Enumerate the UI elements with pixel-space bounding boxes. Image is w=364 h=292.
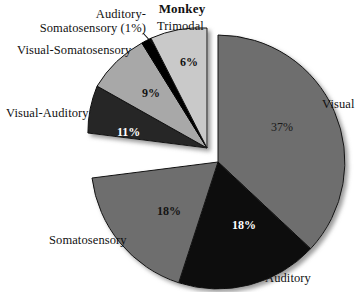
pie-chart: Monkey A: [0, 0, 364, 292]
slice-label-auditory-somatosensory-line1: Auditory-: [14, 8, 146, 22]
slice-label-visual-somatosensory: Visual-Somatosensory: [17, 44, 131, 58]
slice-label-auditory: Auditory: [265, 272, 311, 286]
slice-value-visual: 37%: [271, 120, 293, 135]
slice-label-somatosensory: Somatosensory: [49, 234, 127, 248]
slice-value-visual-auditory: 11%: [117, 125, 140, 140]
slice-label-trimodal: Trimodal: [157, 20, 204, 34]
slice-label-auditory-somatosensory-line2: Somatosensory (1%): [14, 22, 146, 36]
slice-label-visual-auditory: Visual-Auditory: [6, 107, 89, 121]
slice-label-visual: Visual: [322, 98, 355, 112]
slice-label-auditory-somatosensory: Auditory- Somatosensory (1%): [14, 8, 146, 35]
slice-value-visual-somatosensory: 9%: [142, 86, 160, 101]
slice-value-trimodal: 6%: [180, 55, 198, 70]
slice-value-somatosensory: 18%: [157, 204, 181, 219]
slice-value-auditory: 18%: [232, 218, 256, 233]
